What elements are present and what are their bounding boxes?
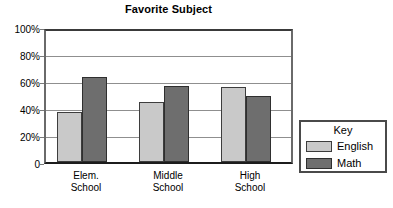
plot-area xyxy=(44,29,293,164)
bar-chart: Favorite Subject 100% 80% 60% 40% 20% 0 … xyxy=(0,0,393,208)
x-axis-label-high-school-line1: High xyxy=(219,170,281,182)
bar-english-middle-school xyxy=(139,102,164,162)
bar-english-elem-school xyxy=(57,112,82,162)
x-axis-label-middle-school-line1: Middle xyxy=(137,170,199,182)
legend-label-english: English xyxy=(337,139,373,153)
y-axis-tick-60: 60% xyxy=(0,79,40,89)
chart-title: Favorite Subject xyxy=(44,3,293,16)
x-axis-label-high-school: High School xyxy=(219,170,281,194)
x-axis-label-middle-school: Middle School xyxy=(137,170,199,194)
y-axis-tick-0: 0 xyxy=(0,160,40,170)
y-axis-tick-80: 80% xyxy=(0,52,40,62)
x-axis-label-elem-school: Elem. School xyxy=(55,170,117,194)
legend-label-math: Math xyxy=(337,156,361,170)
y-axis-tick-100: 100% xyxy=(0,25,40,35)
x-axis-label-middle-school-line2: School xyxy=(137,182,199,194)
bar-english-high-school xyxy=(221,87,246,162)
gridline-80 xyxy=(46,56,291,57)
bar-math-high-school xyxy=(246,96,271,162)
y-axis-tick-mark-0 xyxy=(40,164,44,165)
legend: Key English Math xyxy=(299,120,387,173)
x-axis-label-high-school-line2: School xyxy=(219,182,281,194)
bar-math-middle-school xyxy=(164,86,189,162)
y-axis-tick-40: 40% xyxy=(0,106,40,116)
x-axis-label-elem-school-line2: School xyxy=(55,182,117,194)
legend-swatch-math-icon xyxy=(306,158,332,169)
y-axis-tick-20: 20% xyxy=(0,133,40,143)
legend-swatch-english-icon xyxy=(306,141,332,152)
bar-math-elem-school xyxy=(82,77,107,162)
legend-title: Key xyxy=(301,124,385,137)
x-axis-label-elem-school-line1: Elem. xyxy=(55,170,117,182)
